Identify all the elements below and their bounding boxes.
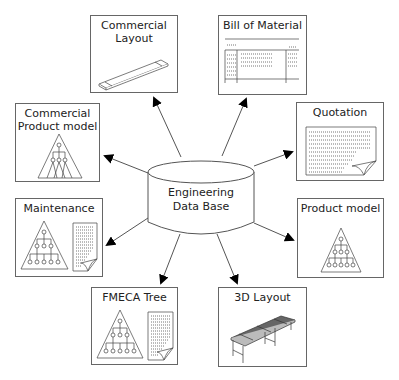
- tree-triangle-icon: [16, 104, 101, 183]
- node-commercial-layout[interactable]: Commercial Layout: [90, 15, 178, 93]
- edge-bill-of-material: [222, 99, 246, 156]
- tree-triangle-icon: [298, 199, 385, 279]
- edge-commercial-layout: [154, 98, 181, 157]
- engineering-database-label: Engineering Data Base: [148, 186, 254, 214]
- edge-product-model: [254, 223, 293, 240]
- edge-quotation: [254, 152, 292, 166]
- flat-bar-3d-icon: [91, 16, 179, 94]
- node-maintenance[interactable]: Maintenance: [15, 198, 103, 277]
- node-product-model[interactable]: Product model: [297, 198, 384, 278]
- diagram-canvas: Engineering Data Base Commercial Layout …: [0, 0, 399, 380]
- tree-triangle-with-document-icon: [16, 199, 104, 278]
- curled-document-icon: [297, 103, 385, 182]
- tree-triangle-with-document-icon: [92, 288, 179, 366]
- node-bill-of-material[interactable]: Bill of Material: [218, 15, 307, 95]
- edge-maintenance: [107, 218, 148, 245]
- node-commercial-product-model[interactable]: Commercial Product model: [15, 103, 100, 182]
- edge-commercial-product-model: [105, 156, 148, 173]
- edge-fmeca-tree: [161, 234, 180, 283]
- conveyor-3d-icon: [219, 288, 308, 368]
- node-fmeca-tree[interactable]: FMECA Tree: [91, 287, 178, 365]
- edge-3d-layout: [217, 234, 237, 283]
- table-document-icon: [219, 16, 308, 96]
- node-3d-layout[interactable]: 3D Layout: [218, 287, 307, 367]
- node-quotation[interactable]: Quotation: [296, 102, 384, 181]
